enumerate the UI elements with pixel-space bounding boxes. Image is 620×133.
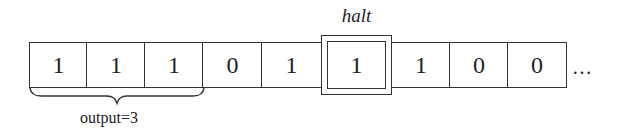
tape-cell: 1: [86, 42, 146, 88]
output-label: output=3: [80, 109, 138, 127]
tape-cell: 0: [449, 42, 509, 88]
brace-icon: [29, 86, 207, 106]
continuation-ellipsis: …: [572, 56, 594, 79]
tape-cell: 0: [507, 42, 567, 88]
tape-cell: 1: [261, 42, 322, 88]
head-cell: 1: [321, 35, 392, 95]
tape-cell-current: 1: [327, 41, 386, 89]
tape-cell: 1: [144, 42, 204, 88]
halt-label: halt: [321, 5, 392, 27]
tape-cell: 1: [391, 42, 451, 88]
tape-cell: 1: [29, 42, 88, 88]
tape-cell: 0: [202, 42, 263, 88]
